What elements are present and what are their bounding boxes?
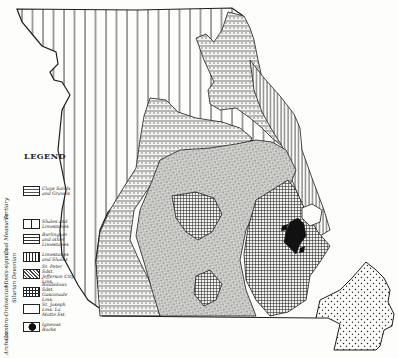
legend-item-roubidoux-gasconade: Roubidoux Sdst. Gasconade Lms. <box>23 286 74 298</box>
legend-item-shales-limestones: Shales and Limestones <box>23 218 74 230</box>
era-label-mississippian: Missis-sippian <box>3 248 9 288</box>
era-label-silurian-devonian: Silurian Devonian <box>11 253 17 303</box>
dashed-horizontal-swatch-icon <box>23 234 40 244</box>
vertical-dense-swatch-icon <box>23 252 40 262</box>
region-tertiary-bootheel <box>316 262 394 350</box>
legend-item-st-peter-jefferson-city: St. Peter Sdst. Jefferson City Lms. <box>23 268 74 280</box>
blank-swatch-icon <box>23 304 40 314</box>
diagonal-stipple-swatch-icon <box>23 269 40 279</box>
legend-item-st-joseph-lamotte: St. Joseph Lms. La Motte Sst. <box>23 303 74 315</box>
map-legend: LEGEND Tertiary Coal Measures Missis-sip… <box>0 140 100 358</box>
legend-item-igneous-rocks: Igneous Rocks <box>23 321 74 333</box>
dots-swatch-icon <box>23 186 40 196</box>
vertical-lines-swatch-icon <box>23 219 40 229</box>
grid-swatch-icon <box>23 287 40 297</box>
legend-item-burlington-limestones: Burlington and other Limestones <box>23 233 74 245</box>
era-label-archean: Archean <box>3 332 9 355</box>
legend-item-limestones-shales: Limestones and Shales <box>23 251 74 263</box>
legend-title: LEGEND <box>24 151 66 161</box>
solid-black-swatch-icon <box>23 322 40 332</box>
legend-item-clays-sands-gravels: Clays Sands and Gravels <box>23 185 74 197</box>
